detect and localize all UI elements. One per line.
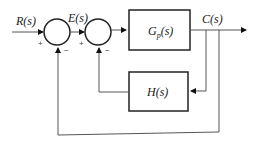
sum1-minus-sign: − (64, 46, 69, 55)
input-label: R(s) (15, 14, 36, 28)
summing-junction-1 (44, 19, 70, 45)
sum1-plus-sign: + (38, 39, 43, 48)
plant-block (129, 10, 190, 50)
plant-label: Gp(s) (148, 24, 173, 40)
error-label: E(s) (67, 11, 88, 25)
sum2-minus-sign: − (105, 46, 110, 55)
output-label: C(s) (202, 12, 223, 26)
block-diagram: R(s) + − E(s) + − Gp(s) C(s) H(s) (0, 0, 254, 141)
feedback-label: H(s) (146, 85, 168, 99)
inner-feedback-path (191, 30, 206, 91)
summing-junction-2 (85, 19, 111, 45)
inner-feedback-return (99, 48, 129, 92)
sum2-plus-sign: + (79, 39, 84, 48)
